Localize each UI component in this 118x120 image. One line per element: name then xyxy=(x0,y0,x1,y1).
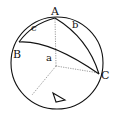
spherical-triangle-diagram: A B C a b c xyxy=(0,0,118,120)
vertex-label-B: B xyxy=(13,48,21,61)
triangle-symbol-icon xyxy=(53,93,65,102)
side-label-a: a xyxy=(46,52,52,63)
vertex-label-C: C xyxy=(101,69,109,82)
arc-a xyxy=(19,42,99,74)
vertex-label-A: A xyxy=(50,5,60,18)
side-label-c: c xyxy=(31,22,37,33)
radius-axis xyxy=(32,66,56,95)
radius-to-A xyxy=(55,18,56,66)
diagram-canvas: A B C a b c xyxy=(0,0,118,120)
side-label-b: b xyxy=(72,19,78,30)
